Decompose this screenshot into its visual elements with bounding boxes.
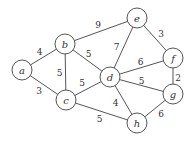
edge-weight-d-g: 5 [139, 76, 145, 86]
node-label-d: d [107, 72, 113, 83]
edges-layer [22, 18, 173, 123]
node-f: f [163, 48, 183, 68]
edge-weight-f-g: 2 [175, 73, 181, 83]
edge-weight-c-d: 5 [79, 78, 85, 88]
edge-b-e [65, 18, 137, 44]
node-c: c [56, 90, 76, 110]
edge-weight-d-e: 7 [114, 42, 120, 52]
node-label-c: c [63, 95, 69, 106]
node-label-e: e [134, 13, 140, 24]
weighted-graph: 43559557654326 abcdefgh [0, 0, 194, 143]
edge-weight-g-h: 6 [158, 109, 164, 119]
node-h: h [127, 113, 147, 133]
edge-weight-a-c: 3 [36, 86, 42, 96]
node-label-g: g [170, 89, 176, 100]
node-d: d [100, 67, 120, 87]
node-e: e [127, 8, 147, 28]
edge-weight-d-h: 4 [113, 98, 119, 108]
edge-weight-b-e: 9 [95, 20, 101, 30]
node-a: a [12, 60, 32, 80]
edge-weight-d-f: 6 [138, 57, 144, 67]
edge-weight-e-f: 3 [158, 29, 164, 39]
edge-weight-b-d: 5 [86, 49, 92, 59]
node-label-h: h [134, 118, 140, 129]
node-b: b [55, 34, 75, 54]
node-g: g [163, 84, 183, 104]
edge-weight-c-h: 5 [97, 114, 103, 124]
edge-weight-a-b: 4 [37, 47, 43, 57]
edge-weight-b-c: 5 [57, 68, 63, 78]
node-label-b: b [62, 39, 68, 50]
node-label-a: a [19, 65, 25, 76]
